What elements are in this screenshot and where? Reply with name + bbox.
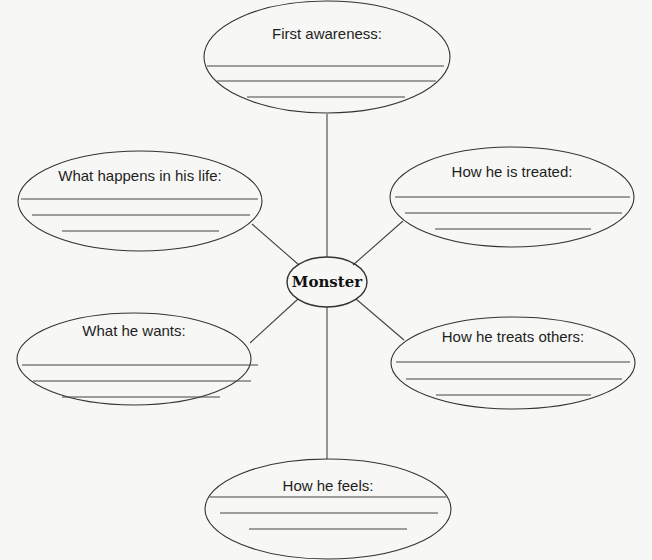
bubble-first-awareness: First awareness: [204,1,450,113]
character-web-diagram: First awareness: What happens in his lif… [0,0,652,560]
bubble-oval [204,1,450,113]
bubble-label: What happens in his life: [58,167,221,184]
bubble-label: What he wants: [82,322,185,339]
connector-lower-left [250,299,298,343]
diagram-svg: First awareness: What happens in his lif… [0,0,652,560]
bubble-label: How he treats others: [442,328,585,345]
bubble-how-he-feels: How he feels: [205,459,451,559]
bubble-how-he-is-treated: How he is treated: [390,147,634,247]
bubble-how-he-treats-others: How he treats others: [391,317,635,409]
connector-lower-right [356,299,404,340]
bubble-what-happens-in-his-life: What happens in his life: [18,151,262,251]
center-label: Monster [292,273,363,291]
bubble-label: First awareness: [272,25,382,42]
center-node-monster: Monster [287,257,367,307]
bubble-oval [205,459,451,559]
bubble-what-he-wants: What he wants: [17,313,258,405]
connector-upper-right [353,221,403,265]
bubble-label: How he feels: [283,477,374,494]
connector-upper-left [252,224,299,265]
bubble-label: How he is treated: [452,163,573,180]
bubble-oval [18,151,262,251]
